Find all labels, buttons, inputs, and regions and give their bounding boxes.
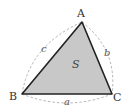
triangle-abc xyxy=(22,22,112,94)
side-label-a: a xyxy=(64,96,70,107)
vertex-label-c: C xyxy=(113,91,121,104)
side-label-c: c xyxy=(41,43,47,54)
side-label-b: b xyxy=(104,47,110,58)
triangle-diagram: A B C c b a S xyxy=(0,0,129,109)
vertex-label-b: B xyxy=(9,90,17,103)
vertex-label-a: A xyxy=(76,7,86,20)
area-label-s: S xyxy=(72,58,80,71)
